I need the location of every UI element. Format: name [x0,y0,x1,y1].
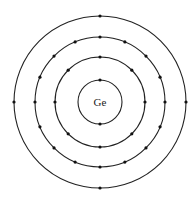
electron-dot [163,100,166,103]
electron-dot [184,100,187,103]
bohr-diagram: Ge [0,0,195,198]
electron-dot [52,146,55,149]
electron-dot [158,125,161,128]
electron-dot [158,76,161,79]
electron-dot [38,125,41,128]
electron-dot [67,132,70,135]
electron-dot [98,186,101,189]
electron-dot [74,160,77,163]
electron-dot [52,54,55,57]
electron-dot [98,78,101,81]
electron-dot [33,100,36,103]
electron-dot [12,100,15,103]
electron-dot [143,100,146,103]
electron-dot [123,40,126,43]
electron-dot [130,132,133,135]
electron-dot [98,165,101,168]
electron-dot [67,69,70,72]
electron-dot [98,145,101,148]
electron-dot [123,160,126,163]
electron-dot [74,40,77,43]
electron-dot [144,54,147,57]
electron-dot [38,76,41,79]
electron-dot [98,55,101,58]
electron-dot [98,122,101,125]
nucleus-label: Ge [94,96,107,108]
electron-dot [144,146,147,149]
electron-dot [53,100,56,103]
electron-dot [98,14,101,17]
electron-dot [98,35,101,38]
electron-dot [130,69,133,72]
